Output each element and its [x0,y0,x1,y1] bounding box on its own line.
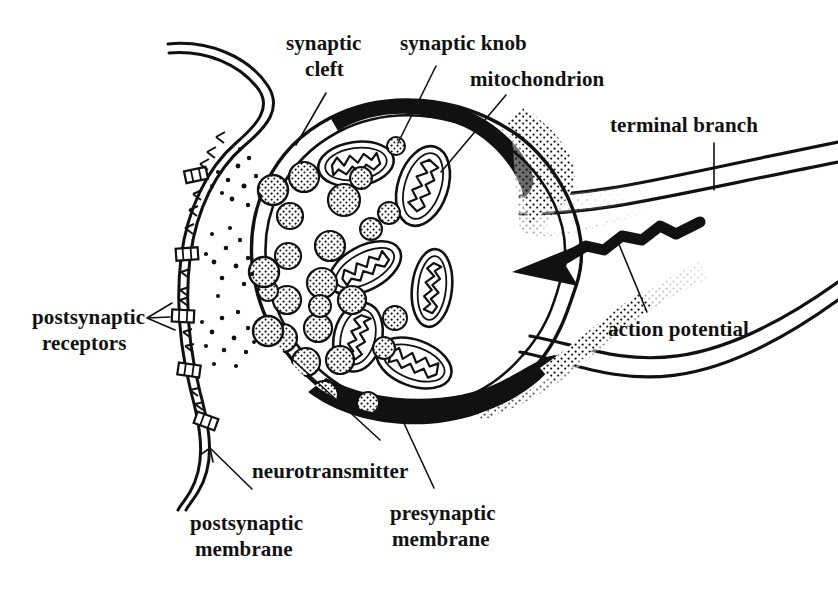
synaptic-vesicle [383,306,407,330]
synaptic-vesicle [338,286,366,314]
fusing-vesicle [253,316,283,346]
postsynaptic-receptor [176,247,199,261]
postsynaptic-receptor [177,363,200,378]
synaptic-vesicle [387,137,405,155]
label-postsynaptic-membrane-line1: postsynaptic [190,511,303,535]
synaptic-vesicle [378,202,400,224]
synaptic-vesicle [350,167,372,189]
label-postsynaptic-receptors-line1: postsynaptic [32,305,145,329]
synaptic-vesicle [309,295,331,317]
fusing-vesicle [249,257,279,287]
synaptic-vesicle [326,346,354,374]
label-neurotransmitter: neurotransmitter [252,459,408,483]
label-synaptic-knob: synaptic knob [400,31,527,55]
synaptic-vesicle [315,231,345,261]
postsynaptic-receptor [172,309,195,322]
label-synaptic-cleft-line2: cleft [305,57,344,81]
label-postsynaptic-receptors-line2: receptors [42,331,126,355]
label-action-potential: action potential [608,317,749,341]
label-terminal-branch: terminal branch [610,113,758,137]
synaptic-vesicle [275,243,301,269]
synapse-diagram-figure: synaptic cleft synaptic knob mitochondri… [0,0,838,603]
fusing-vesicle [258,175,288,205]
synaptic-vesicle [307,268,337,298]
label-synaptic-cleft-line1: synaptic [286,31,361,55]
label-presynaptic-membrane-line2: membrane [392,527,490,551]
synaptic-vesicle [304,314,332,342]
label-mitochondrion: mitochondrion [470,67,605,91]
label-presynaptic-membrane-line1: presynaptic [390,501,496,525]
synaptic-vesicle [289,162,319,192]
label-postsynaptic-membrane-line2: membrane [195,537,293,561]
synaptic-vesicle [360,218,382,240]
synaptic-vesicle [277,203,303,229]
synaptic-vesicle [373,337,395,359]
synapse-diagram-svg: synaptic cleft synaptic knob mitochondri… [0,0,838,603]
synaptic-vesicle [328,184,360,216]
